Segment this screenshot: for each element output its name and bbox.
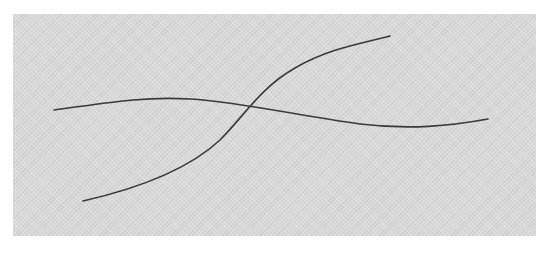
- curve-a: [54, 98, 488, 127]
- curve-b: [83, 36, 390, 201]
- curves-canvas: [0, 0, 551, 254]
